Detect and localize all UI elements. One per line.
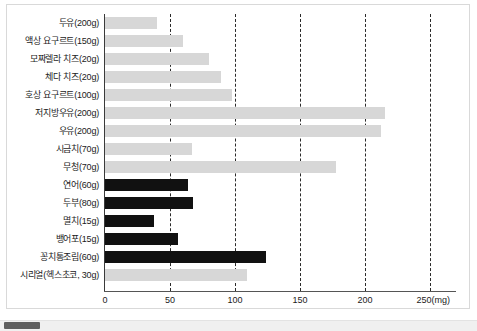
category-label: 우유(200g) <box>0 122 99 140</box>
bar <box>105 107 385 119</box>
chart-row: 뱅어포(15g) <box>0 230 477 248</box>
x-tick-label: 150 <box>292 295 307 305</box>
bar <box>105 143 192 155</box>
bar <box>105 89 232 101</box>
chart-row: 멸치(15g) <box>0 212 477 230</box>
category-label: 시금치(70g) <box>0 140 99 158</box>
category-label: 뱅어포(15g) <box>0 230 99 248</box>
chart-row: 연어(60g) <box>0 176 477 194</box>
bar <box>105 53 209 65</box>
chart-row: 시금치(70g) <box>0 140 477 158</box>
category-label: 액상 요구르트(150g) <box>0 32 99 50</box>
category-label: 두유(200g) <box>0 14 99 32</box>
chart-row: 무청(70g) <box>0 158 477 176</box>
category-label: 무청(70g) <box>0 158 99 176</box>
bar <box>105 179 188 191</box>
horizontal-scrollbar[interactable] <box>0 320 477 331</box>
x-axis-line <box>104 291 456 292</box>
chart-row: 우유(200g) <box>0 122 477 140</box>
category-label: 멸치(15g) <box>0 212 99 230</box>
chart-row: 저지방우유(200g) <box>0 104 477 122</box>
bar <box>105 125 381 137</box>
bar <box>105 251 266 263</box>
category-label: 저지방우유(200g) <box>0 104 99 122</box>
chart-row: 시리얼(헥스초코, 30g) <box>0 266 477 284</box>
bar <box>105 35 183 47</box>
bar <box>105 233 178 245</box>
x-tick-label: 0 <box>102 295 107 305</box>
category-label: 체다 치즈(20g) <box>0 68 99 86</box>
category-label: 연어(60g) <box>0 176 99 194</box>
x-tick-label: 50 <box>165 295 175 305</box>
x-tick-label: 200 <box>357 295 372 305</box>
chart-row: 꽁치통조림(60g) <box>0 248 477 266</box>
chart-row: 호상 요구르트(100g) <box>0 86 477 104</box>
bar <box>105 215 154 227</box>
category-label: 호상 요구르트(100g) <box>0 86 99 104</box>
bar <box>105 197 193 209</box>
bar <box>105 161 336 173</box>
bar <box>105 269 247 281</box>
category-label: 모짜렐라 치즈(20g) <box>0 50 99 68</box>
category-label: 꽁치통조림(60g) <box>0 248 99 266</box>
x-tick-label: 100 <box>227 295 242 305</box>
bar <box>105 71 221 83</box>
bar <box>105 17 157 29</box>
chart-row: 두유(200g) <box>0 14 477 32</box>
category-label: 두부(80g) <box>0 194 99 212</box>
scrollbar-thumb[interactable] <box>4 322 40 329</box>
category-label: 시리얼(헥스초코, 30g) <box>0 266 99 284</box>
chart-row: 액상 요구르트(150g) <box>0 32 477 50</box>
chart-row: 두부(80g) <box>0 194 477 212</box>
chart-row: 모짜렐라 치즈(20g) <box>0 50 477 68</box>
chart-row: 체다 치즈(20g) <box>0 68 477 86</box>
x-tick-label: 250(mg) <box>417 295 451 305</box>
